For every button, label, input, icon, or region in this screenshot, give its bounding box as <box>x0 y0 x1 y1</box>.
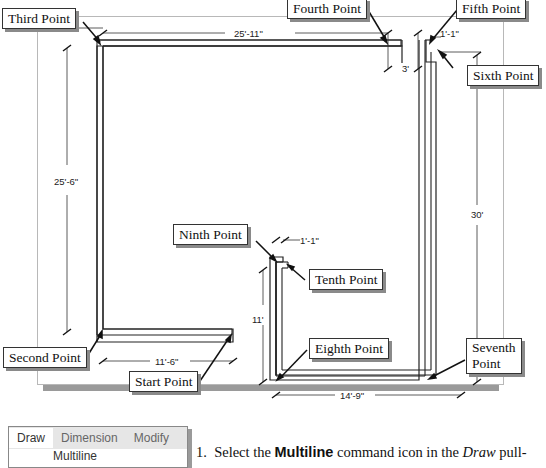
dimension-bottom-left: 11'-6" <box>155 356 179 367</box>
menu-tabs: Draw Dimension Modify <box>9 427 187 449</box>
dimension-gap-depth: 3' <box>402 63 409 74</box>
callout-third-point: Third Point <box>2 8 76 29</box>
callout-eighth-point: Eighth Point <box>309 338 389 359</box>
callout-fifth-point: Fifth Point <box>456 0 526 19</box>
instruction-text: pull- <box>496 444 527 460</box>
tab-draw[interactable]: Draw <box>9 428 53 448</box>
callout-second-point: Second Point <box>3 347 87 368</box>
instruction-text: command icon in the <box>333 444 462 460</box>
tab-dimension[interactable]: Dimension <box>53 428 126 448</box>
dimension-gap-top: 1'-1" <box>440 28 459 39</box>
callout-ninth-point: Ninth Point <box>173 224 248 245</box>
callout-seventh-line1: Seventh <box>472 340 516 355</box>
dimension-inner-gap: 1'-1" <box>300 235 319 246</box>
callout-fourth-point: Fourth Point <box>287 0 367 19</box>
instruction-command: Multiline <box>275 444 334 460</box>
callout-tenth-point: Tenth Point <box>309 269 383 290</box>
instruction-menu-name: Draw <box>463 444 496 460</box>
dimension-left-height: 25'-6" <box>54 176 78 187</box>
callout-start-point: Start Point <box>129 371 198 392</box>
callout-sixth-point: Sixth Point <box>467 65 539 86</box>
dimension-right-height: 30' <box>471 209 484 220</box>
instruction-step: 1. Select the Multiline command icon in … <box>196 444 527 461</box>
callout-seventh-point: Seventh Point <box>466 338 522 374</box>
ribbon-menu: Draw Dimension Modify Multiline <box>8 426 188 468</box>
step-number: 1. <box>196 444 207 460</box>
dimension-inner-height: 11' <box>252 314 264 325</box>
tab-modify[interactable]: Modify <box>126 428 177 448</box>
instruction-text: Select the <box>214 444 274 460</box>
dimension-top-width: 25'-11" <box>234 28 263 39</box>
callout-seventh-line2: Point <box>472 356 501 371</box>
menu-item-multiline[interactable]: Multiline <box>9 449 187 467</box>
dimension-bottom-right: 14'-9" <box>340 390 364 401</box>
